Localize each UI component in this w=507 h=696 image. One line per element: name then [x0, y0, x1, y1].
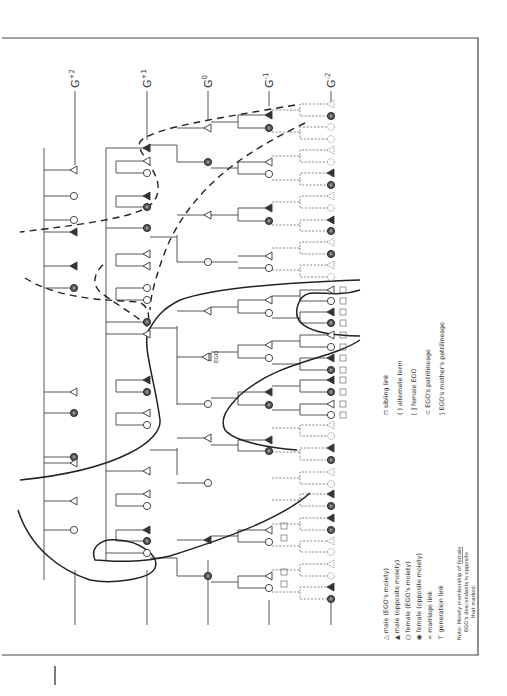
legend-note: Note: Moiety membership of female EGO's …: [456, 546, 476, 640]
svg-text:that marked.: that marked.: [470, 584, 476, 618]
gen-label-g1: G+1: [140, 69, 154, 88]
svg-text:△ male (EGO's moiety): △ male (EGO's moiety): [382, 568, 390, 640]
svg-text:◉ female (opposite moiety): ◉ female (opposite moiety): [415, 553, 423, 640]
svg-text:⊤ generation link: ⊤ generation link: [437, 585, 445, 640]
legend-right: ⊓ sibling link ( ) alternate term [ ] fe…: [382, 322, 446, 415]
legend-left: △ male (EGO's moiety) ▲ male (opposite m…: [382, 553, 445, 640]
scanned-page: G+2 G+1 G0 G-1 G-2: [0, 0, 507, 696]
ego-node: [202, 353, 211, 361]
ego-label: EGO: [213, 350, 219, 363]
svg-text:⊂ EGO's patrilineage: ⊂ EGO's patrilineage: [424, 349, 432, 415]
kinship-diagram: G+2 G+1 G0 G-1 G-2: [0, 0, 507, 696]
svg-text:⊓ sibling link: ⊓ sibling link: [382, 374, 390, 415]
svg-text:⟆ EGO's mother's patrilineage: ⟆ EGO's mother's patrilineage: [438, 322, 446, 415]
boxed-terms: [281, 287, 346, 587]
generation-axes: G+2 G+1 G0 G-1 G-2: [68, 69, 338, 625]
svg-text:[ ] female EGO: [ ] female EGO: [410, 368, 417, 415]
svg-text:EGO's descendants is opposite: EGO's descendants is opposite: [463, 552, 470, 632]
gen-label-g-1: G-1: [262, 72, 276, 88]
lineage-boundaries: [18, 105, 360, 582]
svg-text:= marriage link: = marriage link: [426, 591, 434, 640]
gen-label-g-2: G-2: [324, 72, 338, 88]
nodes-g-2: [327, 100, 335, 603]
nodes-g2: [70, 166, 78, 534]
svg-text:( ) alternate term: ( ) alternate term: [396, 360, 403, 415]
gen-label-g2: G+2: [68, 69, 82, 88]
svg-text:▲ male (opposite moiety): ▲ male (opposite moiety): [393, 560, 401, 640]
svg-text:○ female (EGO's moiety): ○ female (EGO's moiety): [404, 561, 412, 640]
gen-label-g0: G0: [201, 75, 215, 88]
svg-text:Note: Moiety membership of fem: Note: Moiety membership of female: [456, 546, 463, 640]
tree-lines: [44, 115, 328, 588]
dotted-descendant-links: [272, 104, 328, 599]
